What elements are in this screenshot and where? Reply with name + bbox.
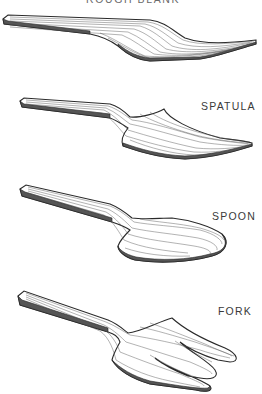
rough-blank-label: ROUGH BLANK (86, 0, 180, 5)
utensil-illustrations (0, 0, 262, 394)
spoon-label: SPOON (212, 210, 256, 222)
utensil-blanks-figure: ROUGH BLANK SPATULA SPOON FORK (0, 0, 262, 394)
fork-illustration (18, 291, 236, 391)
spoon-illustration (20, 185, 226, 262)
rough-blank-illustration (3, 15, 256, 61)
spatula-label: SPATULA (201, 100, 256, 112)
fork-label: FORK (218, 305, 252, 317)
